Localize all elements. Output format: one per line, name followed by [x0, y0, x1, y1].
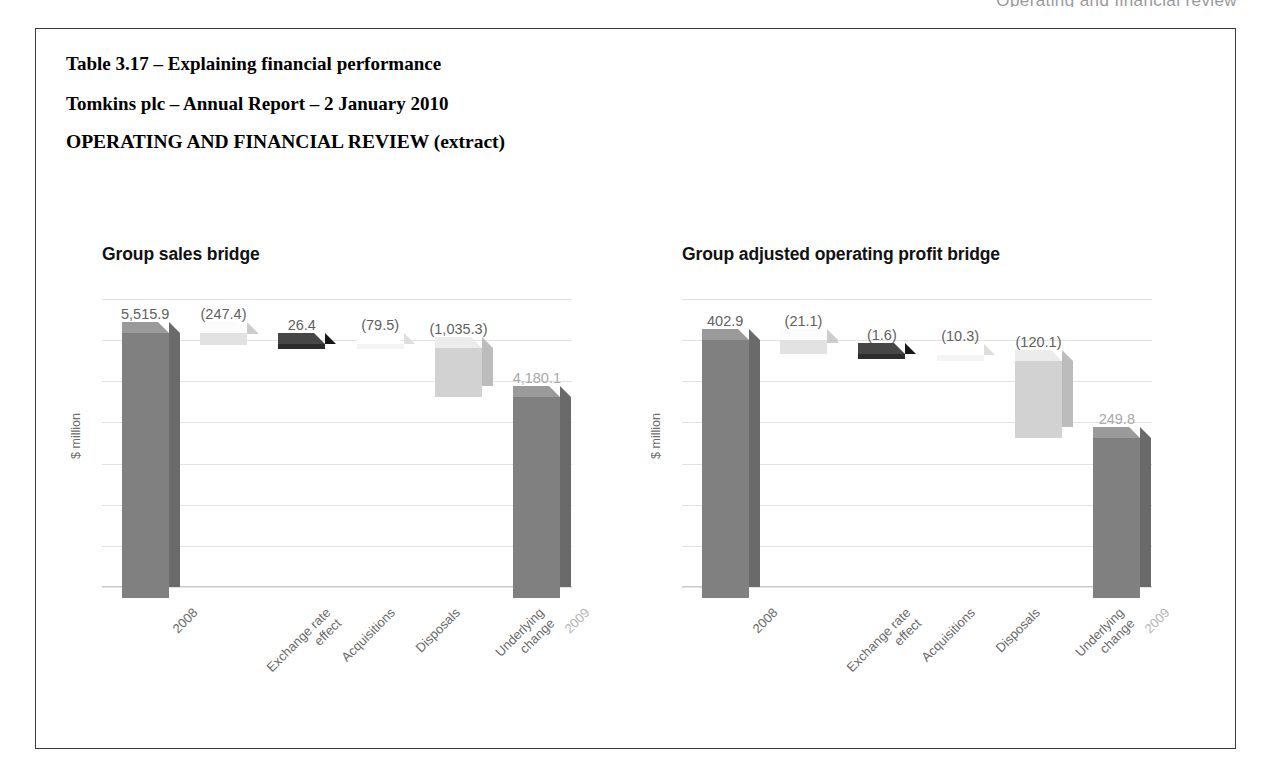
bar-top-face	[1015, 350, 1062, 361]
bar-front-face	[937, 355, 984, 362]
bar-total-5	[1093, 438, 1140, 598]
bar-value-label: (1,035.3)	[411, 321, 506, 337]
bar-total-0	[702, 340, 749, 598]
running-page-header: Operating and financial review	[996, 0, 1237, 7]
chart-group-adjusted-operating-profit-bridge: Group adjusted operating profit bridge $…	[644, 244, 1204, 714]
bar-total-0	[122, 333, 169, 598]
section-title: OPERATING AND FINANCIAL REVIEW (extract)	[66, 132, 505, 152]
bar-top-face	[1093, 427, 1140, 438]
bar-delta-2	[858, 354, 905, 359]
bar-delta-1	[200, 333, 247, 345]
bar-top-face	[357, 333, 404, 344]
plot-wrap-left: $ million 5,515.9(247.4)26.4(79.5)(1,035…	[64, 299, 584, 599]
x-axis-label-1: Exchange rate effect	[264, 605, 344, 685]
bar-side-face	[325, 333, 336, 344]
bar-top-face	[435, 337, 482, 348]
x-axis-label-4: Underlying change	[492, 605, 557, 670]
y-axis-title-right: $ million	[649, 326, 663, 546]
x-axis-label-4: Underlying change	[1072, 605, 1137, 670]
x-axis-label-5: 2009	[561, 605, 592, 636]
bar-side-face	[169, 322, 180, 587]
bar-delta-1	[780, 340, 827, 354]
bar-side-face	[1140, 427, 1151, 587]
figure-box: Table 3.17 – Explaining financial perfor…	[35, 28, 1236, 749]
bar-front-face	[122, 333, 169, 598]
x-axis-label-1: Exchange rate effect	[844, 605, 924, 685]
gridline	[102, 299, 572, 300]
x-axis-label-2: Acquisitions	[338, 605, 398, 665]
bar-value-label: 249.8	[1069, 411, 1164, 427]
chart-group-sales-bridge: Group sales bridge $ million 5,515.9(247…	[64, 244, 624, 714]
source-line: Tomkins plc – Annual Report – 2 January …	[66, 94, 505, 113]
plot-area-right: 402.9(21.1)(1.6)(10.3)(120.1)249.8	[682, 299, 1152, 587]
bar-front-face	[702, 340, 749, 598]
bar-front-face	[513, 397, 560, 598]
x-axis-label-2: Acquisitions	[918, 605, 978, 665]
bar-delta-2	[278, 344, 325, 349]
y-axis-title-left: $ million	[69, 326, 83, 546]
gridline	[682, 299, 1152, 300]
x-axis-label-5: 2009	[1141, 605, 1172, 636]
bar-top-face	[200, 322, 247, 333]
x-axis-labels-right: 2008Exchange rate effectAcquisitionsDisp…	[682, 595, 1152, 715]
bar-top-face	[702, 329, 749, 340]
bar-value-label: 4,180.1	[489, 370, 584, 386]
bar-front-face	[200, 333, 247, 345]
bar-front-face	[858, 354, 905, 359]
x-axis-label-3: Disposals	[412, 605, 462, 655]
bar-front-face	[780, 340, 827, 354]
bar-delta-4	[1015, 361, 1062, 438]
bar-front-face	[1093, 438, 1140, 598]
gridline	[102, 587, 572, 588]
bar-front-face	[278, 344, 325, 349]
heading-block: Table 3.17 – Explaining financial perfor…	[66, 54, 505, 152]
chart-title-right: Group adjusted operating profit bridge	[682, 244, 1204, 265]
bar-side-face	[749, 329, 760, 587]
bar-top-face	[858, 343, 905, 354]
chart-title-left: Group sales bridge	[102, 244, 624, 265]
bar-front-face	[1015, 361, 1062, 438]
bar-delta-4	[435, 348, 482, 398]
plot-wrap-right: $ million 402.9(21.1)(1.6)(10.3)(120.1)2…	[644, 299, 1164, 599]
bar-front-face	[435, 348, 482, 398]
bar-total-5	[513, 397, 560, 598]
bar-side-face	[905, 343, 916, 354]
bar-side-face	[560, 386, 571, 587]
x-axis-label-3: Disposals	[992, 605, 1042, 655]
x-axis-label-0: 2008	[749, 605, 780, 636]
bar-top-face	[937, 344, 984, 355]
gridline	[682, 587, 1152, 588]
bar-value-label: (120.1)	[991, 334, 1086, 350]
plot-area-left: 5,515.9(247.4)26.4(79.5)(1,035.3)4,180.1	[102, 299, 572, 587]
x-axis-label-0: 2008	[169, 605, 200, 636]
bar-front-face	[357, 344, 404, 349]
x-axis-labels-left: 2008Exchange rate effectAcquisitionsDisp…	[102, 595, 572, 715]
table-caption: Table 3.17 – Explaining financial perfor…	[66, 54, 505, 73]
bar-top-face	[513, 386, 560, 397]
bar-delta-3	[937, 355, 984, 362]
bar-top-face	[122, 322, 169, 333]
bar-delta-3	[357, 344, 404, 349]
bar-top-face	[278, 333, 325, 344]
bar-top-face	[780, 329, 827, 340]
